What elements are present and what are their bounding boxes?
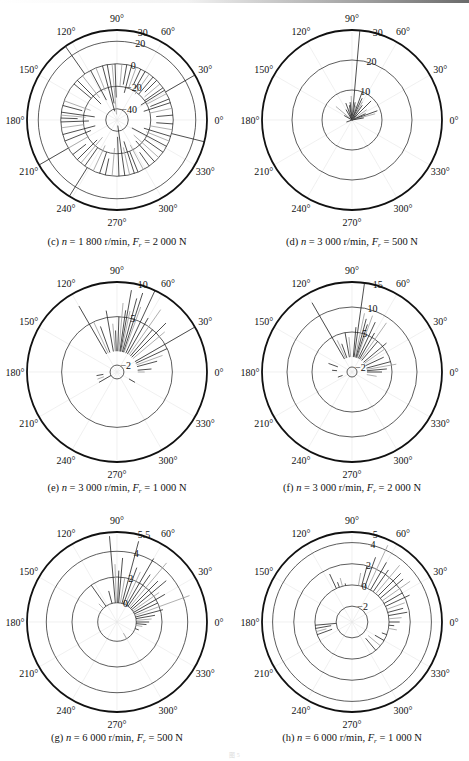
svg-text:270°: 270°	[343, 217, 362, 228]
svg-text:240°: 240°	[292, 455, 311, 466]
polar-plot-h: −202450°30°60°90°120°150°180°210°240°270…	[235, 510, 469, 732]
svg-text:10: 10	[368, 303, 378, 314]
svg-text:−40: −40	[121, 104, 137, 115]
svg-text:30: 30	[373, 27, 383, 38]
svg-text:60°: 60°	[396, 528, 410, 539]
svg-text:210°: 210°	[254, 418, 273, 429]
svg-text:180°: 180°	[241, 115, 260, 126]
svg-text:30°: 30°	[198, 316, 212, 327]
svg-text:4: 4	[371, 539, 376, 550]
polar-panel-e: −25100°30°60°90°120°150°180°210°240°270°…	[0, 260, 234, 510]
svg-text:30°: 30°	[433, 64, 447, 75]
svg-text:90°: 90°	[345, 13, 359, 24]
svg-text:240°: 240°	[57, 203, 76, 214]
svg-text:180°: 180°	[6, 367, 25, 378]
svg-text:5.5: 5.5	[138, 529, 151, 540]
svg-text:240°: 240°	[292, 705, 311, 716]
svg-text:300°: 300°	[159, 455, 178, 466]
svg-text:60°: 60°	[396, 26, 410, 37]
svg-text:240°: 240°	[57, 705, 76, 716]
svg-text:150°: 150°	[254, 64, 273, 75]
svg-text:90°: 90°	[110, 515, 124, 526]
svg-text:2: 2	[366, 560, 371, 571]
svg-text:10: 10	[138, 279, 148, 290]
svg-text:60°: 60°	[396, 278, 410, 289]
svg-text:−2: −2	[120, 360, 131, 371]
svg-text:60°: 60°	[161, 26, 175, 37]
svg-text:150°: 150°	[19, 566, 38, 577]
scan-edge-band	[0, 0, 469, 3]
svg-text:300°: 300°	[159, 705, 178, 716]
svg-text:120°: 120°	[292, 528, 311, 539]
svg-text:30°: 30°	[433, 566, 447, 577]
svg-text:20: 20	[135, 38, 145, 49]
svg-text:330°: 330°	[431, 418, 450, 429]
svg-text:240°: 240°	[57, 455, 76, 466]
svg-text:270°: 270°	[343, 469, 362, 480]
polar-panel-c: −40−20020300°30°60°90°120°150°180°210°24…	[0, 8, 234, 258]
svg-text:240°: 240°	[292, 203, 311, 214]
svg-text:5: 5	[131, 313, 136, 324]
svg-text:90°: 90°	[345, 515, 359, 526]
svg-text:150°: 150°	[19, 64, 38, 75]
svg-text:330°: 330°	[431, 166, 450, 177]
svg-text:0°: 0°	[450, 115, 459, 126]
svg-text:300°: 300°	[394, 203, 413, 214]
svg-text:5: 5	[362, 328, 367, 339]
svg-text:300°: 300°	[394, 705, 413, 716]
svg-text:330°: 330°	[196, 418, 215, 429]
svg-text:0°: 0°	[450, 617, 459, 628]
svg-text:150°: 150°	[254, 566, 273, 577]
svg-text:180°: 180°	[6, 617, 25, 628]
svg-text:90°: 90°	[345, 265, 359, 276]
polar-plot-f: −2510150°30°60°90°120°150°180°210°240°27…	[235, 260, 469, 482]
svg-text:0: 0	[362, 581, 367, 592]
svg-text:4: 4	[134, 548, 139, 559]
figure-footer-label: 图 5	[0, 750, 469, 759]
svg-text:330°: 330°	[431, 668, 450, 679]
caption-d: (d) n = 3 000 r/min, Fr = 500 N	[235, 236, 469, 249]
svg-text:270°: 270°	[108, 719, 127, 730]
caption-g: (g) n = 6 000 r/min, Fr = 500 N	[0, 732, 234, 745]
svg-text:30°: 30°	[433, 316, 447, 327]
polar-plot-d: 1020300°30°60°90°120°150°180°210°240°270…	[235, 8, 469, 230]
svg-text:120°: 120°	[292, 26, 311, 37]
svg-text:30: 30	[138, 27, 148, 38]
svg-text:0: 0	[123, 598, 128, 609]
svg-text:60°: 60°	[161, 278, 175, 289]
svg-text:0°: 0°	[215, 367, 224, 378]
polar-plot-e: −25100°30°60°90°120°150°180°210°240°270°…	[0, 260, 234, 482]
svg-text:270°: 270°	[343, 719, 362, 730]
svg-text:210°: 210°	[19, 418, 38, 429]
polar-panel-h: −202450°30°60°90°120°150°180°210°240°270…	[235, 510, 469, 760]
svg-text:270°: 270°	[108, 217, 127, 228]
polar-plot-g: 0245.50°30°60°90°120°150°180°210°240°270…	[0, 510, 234, 732]
svg-text:180°: 180°	[6, 115, 25, 126]
svg-text:−2: −2	[357, 601, 368, 612]
polar-plot-c: −40−20020300°30°60°90°120°150°180°210°24…	[0, 8, 234, 230]
svg-text:0°: 0°	[215, 115, 224, 126]
svg-text:90°: 90°	[110, 265, 124, 276]
svg-text:120°: 120°	[57, 528, 76, 539]
svg-text:20: 20	[366, 56, 376, 67]
svg-text:210°: 210°	[254, 668, 273, 679]
svg-text:0°: 0°	[215, 617, 224, 628]
svg-text:0°: 0°	[450, 367, 459, 378]
svg-text:300°: 300°	[159, 203, 178, 214]
svg-text:150°: 150°	[254, 316, 273, 327]
svg-text:60°: 60°	[161, 528, 175, 539]
caption-f: (f) n = 3 000 r/min, Fr = 2 000 N	[235, 482, 469, 495]
svg-text:30°: 30°	[198, 566, 212, 577]
polar-panel-f: −2510150°30°60°90°120°150°180°210°240°27…	[235, 260, 469, 510]
svg-text:210°: 210°	[19, 166, 38, 177]
svg-text:330°: 330°	[196, 166, 215, 177]
caption-h: (h) n = 6 000 r/min, Fr = 1 000 N	[235, 732, 469, 745]
caption-e: (e) n = 3 000 r/min, Fr = 1 000 N	[0, 482, 234, 495]
svg-text:0: 0	[131, 60, 136, 71]
svg-text:210°: 210°	[19, 668, 38, 679]
svg-text:120°: 120°	[292, 278, 311, 289]
svg-text:120°: 120°	[57, 278, 76, 289]
svg-text:120°: 120°	[57, 26, 76, 37]
svg-text:10: 10	[360, 86, 370, 97]
svg-text:210°: 210°	[254, 166, 273, 177]
